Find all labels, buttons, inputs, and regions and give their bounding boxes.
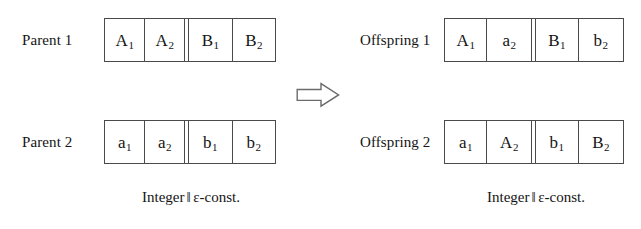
chromosome-row-parent-2: Parent 2 a1 a2 b1 b2 bbox=[22, 120, 276, 164]
gene-cell: B1 bbox=[188, 19, 233, 61]
chromosome-row-parent-1: Parent 1 A1 A2 B1 B2 bbox=[22, 18, 276, 62]
gene-cell: A1 bbox=[105, 19, 145, 61]
caption-right: Integer‖ε-const. bbox=[444, 190, 628, 205]
crossover-figure: Parent 1 A1 A2 B1 B2 Parent 2 a1 a2 bbox=[0, 0, 641, 229]
caption-prefix: Integer bbox=[142, 189, 184, 205]
chromosome-parent-2: a1 a2 b1 b2 bbox=[104, 120, 276, 164]
gene-label: B1 bbox=[202, 32, 219, 49]
chromosome-offspring-2: a1 A2 b1 B2 bbox=[444, 120, 624, 164]
gene-label: A1 bbox=[457, 32, 475, 49]
row-label-parent-2: Parent 2 bbox=[22, 135, 104, 150]
gene-label: B2 bbox=[592, 134, 609, 151]
gene-cell: b1 bbox=[535, 121, 579, 163]
caption-prefix: Integer bbox=[487, 189, 529, 205]
gene-label: b1 bbox=[550, 134, 564, 151]
gene-cell: B2 bbox=[233, 19, 275, 61]
gene-label: b2 bbox=[594, 32, 608, 49]
gene-label: A2 bbox=[156, 32, 174, 49]
gene-label: B1 bbox=[548, 32, 565, 49]
row-label-parent-1: Parent 1 bbox=[22, 33, 104, 48]
gene-label: b2 bbox=[247, 134, 261, 151]
gene-cell: b2 bbox=[579, 19, 623, 61]
chromosome-row-offspring-2: Offspring 2 a1 A2 b1 B2 bbox=[360, 120, 624, 164]
gene-cell: a2 bbox=[145, 121, 185, 163]
caption-left: Integer‖ε-const. bbox=[104, 190, 278, 205]
gene-cell: A2 bbox=[487, 121, 532, 163]
gene-cell: b2 bbox=[233, 121, 275, 163]
gene-label: a2 bbox=[502, 32, 515, 49]
right-block-arrow-icon bbox=[296, 82, 340, 108]
gene-cell: b1 bbox=[188, 121, 233, 163]
gene-label: a1 bbox=[459, 134, 472, 151]
caption-separator: ‖ bbox=[530, 189, 539, 205]
chromosome-offspring-1: A1 a2 B1 b2 bbox=[444, 18, 624, 62]
row-label-offspring-2: Offspring 2 bbox=[360, 135, 444, 150]
gene-label: a2 bbox=[158, 134, 171, 151]
chromosome-row-offspring-1: Offspring 1 A1 a2 B1 b2 bbox=[360, 18, 624, 62]
gene-cell: a1 bbox=[105, 121, 145, 163]
gene-cell: B1 bbox=[535, 19, 579, 61]
gene-label: B2 bbox=[245, 32, 262, 49]
gene-cell: A1 bbox=[445, 19, 487, 61]
caption-suffix: ε-const. bbox=[193, 189, 240, 205]
chromosome-parent-1: A1 A2 B1 B2 bbox=[104, 18, 276, 62]
caption-separator: ‖ bbox=[185, 189, 194, 205]
row-label-offspring-1: Offspring 1 bbox=[360, 33, 444, 48]
gene-label: a1 bbox=[118, 134, 131, 151]
gene-cell: B2 bbox=[579, 121, 623, 163]
caption-suffix: ε-const. bbox=[538, 189, 585, 205]
gene-cell: a1 bbox=[445, 121, 487, 163]
gene-label: A1 bbox=[116, 32, 134, 49]
gene-cell: a2 bbox=[487, 19, 532, 61]
gene-cell: A2 bbox=[145, 19, 185, 61]
gene-label: b1 bbox=[203, 134, 217, 151]
gene-label: A2 bbox=[500, 134, 518, 151]
